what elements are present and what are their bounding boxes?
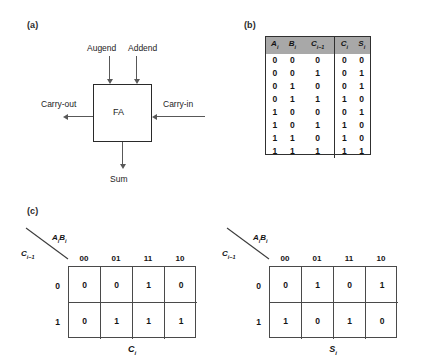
table-row: 0 1 1 1 0: [266, 93, 370, 106]
kmap-sum-cell-r0c2: 0: [334, 267, 366, 303]
cell-b: 0: [284, 54, 302, 67]
carry-in-arrow-head-icon: [152, 114, 157, 120]
cell-s: 0: [353, 54, 370, 67]
cell-s: 0: [353, 93, 370, 106]
cell-cprev: 1: [301, 93, 335, 106]
header-a: Ai: [266, 37, 284, 54]
sum-arrow-line: [122, 142, 123, 165]
kmap-sum-cell-r1c2: 1: [334, 303, 366, 339]
cell-cout: 1: [335, 119, 354, 132]
truth-table-body: 0 0 0 0 0 0 0 1 0 1 0 1 0 0: [266, 54, 370, 158]
cell-cprev: 0: [301, 80, 335, 93]
truth-table-header-row: Ai Bi Ci−1 Ci Si: [266, 37, 370, 54]
cell-cout: 0: [335, 80, 354, 93]
kmap-sum-row-label-1: 1: [245, 317, 261, 327]
kmap-carry-cell-r0c1: 0: [101, 267, 133, 303]
addend-arrow-line: [136, 56, 137, 80]
kmap-sum-cell-r1c1: 0: [302, 303, 334, 339]
cell-s: 1: [353, 80, 370, 93]
kmap-sum-cell-r0c0: 0: [270, 267, 302, 303]
cell-a: 1: [266, 106, 284, 119]
kmap-carry-col-label-2: 11: [132, 254, 164, 263]
header-s: Si: [353, 37, 370, 54]
kmap-sum-caption: Si: [269, 344, 397, 356]
panel-label-c: (c): [27, 206, 38, 216]
kmap-sum-grid: 0 1 0 1 1 0 1 0: [269, 266, 397, 338]
truth-table-container: Ai Bi Ci−1 Ci Si 0 0 0 0 0 0 0: [265, 36, 371, 155]
cell-cprev: 1: [301, 119, 335, 132]
cell-s: 1: [353, 106, 370, 119]
label-addend: Addend: [128, 43, 157, 53]
augend-arrow-line: [109, 56, 110, 80]
cell-b: 1: [284, 132, 302, 145]
cell-b: 0: [284, 106, 302, 119]
carry-out-arrow-head-icon: [63, 114, 68, 120]
cell-cprev: 1: [301, 67, 335, 80]
kmap-carry-row-label-0: 0: [44, 281, 60, 291]
kmap-sum-col-label-1: 01: [301, 254, 333, 263]
cell-b: 1: [284, 145, 302, 158]
table-row: 1 1 0 1 0: [266, 132, 370, 145]
cell-cprev: 1: [301, 145, 335, 158]
kmap-carry-cell-r1c3: 1: [165, 303, 197, 339]
label-augend: Augend: [87, 43, 116, 53]
panel-label-b: (b): [244, 20, 256, 30]
table-row: 0 0 0 0 0: [266, 54, 370, 67]
cell-b: 1: [284, 80, 302, 93]
cell-s: 0: [353, 119, 370, 132]
cell-cout: 0: [335, 54, 354, 67]
header-c-out: Ci: [335, 37, 354, 54]
cell-b: 0: [284, 119, 302, 132]
table-row: 0 0 1 0 1: [266, 67, 370, 80]
kmap-carry-cell-r0c3: 0: [165, 267, 197, 303]
kmap-sum-cell-r0c3: 1: [366, 267, 398, 303]
cell-a: 0: [266, 67, 284, 80]
cell-s: 0: [353, 132, 370, 145]
kmap-sum-row-label-0: 0: [245, 281, 261, 291]
table-row: 1 1 1 1 1: [266, 145, 370, 158]
carry-out-arrow-line: [68, 116, 93, 117]
kmap-sum-col-label-3: 10: [365, 254, 397, 263]
cell-b: 1: [284, 93, 302, 106]
truth-table: Ai Bi Ci−1 Ci Si 0 0 0 0 0 0 0: [266, 37, 370, 158]
cell-s: 1: [353, 145, 370, 158]
kmap-carry-row-var: Ci−1: [21, 249, 35, 260]
kmap-sum-cell-r1c3: 0: [366, 303, 398, 339]
label-carry-in: Carry-in: [163, 99, 193, 109]
cell-cout: 0: [335, 106, 354, 119]
cell-cprev: 0: [301, 132, 335, 145]
kmap-sum-col-label-0: 00: [269, 254, 301, 263]
kmap-carry-cell-r1c1: 1: [101, 303, 133, 339]
cell-b: 0: [284, 67, 302, 80]
kmap-carry-grid: 0 0 1 0 0 1 1 1: [68, 266, 196, 338]
sum-arrow-head-icon: [120, 164, 126, 169]
kmap-sum-col-var: AiBi: [253, 233, 268, 244]
kmap-carry-cell-r1c0: 0: [69, 303, 101, 339]
kmap-sum-row-var: Ci−1: [222, 249, 236, 260]
kmap-carry-col-label-3: 10: [164, 254, 196, 263]
kmap-carry-cell-r1c2: 1: [133, 303, 165, 339]
cell-s: 1: [353, 67, 370, 80]
cell-cout: 1: [335, 145, 354, 158]
kmap-carry-col-label-1: 01: [100, 254, 132, 263]
kmap-carry-cell-r0c2: 1: [133, 267, 165, 303]
label-sum: Sum: [110, 174, 127, 184]
kmap-carry-caption: Ci: [68, 344, 196, 356]
table-row: 1 0 1 1 0: [266, 119, 370, 132]
cell-a: 1: [266, 145, 284, 158]
kmap-carry-col-var: AiBi: [52, 233, 67, 244]
cell-cout: 1: [335, 93, 354, 106]
cell-a: 0: [266, 93, 284, 106]
kmap-carry-col-label-0: 00: [68, 254, 100, 263]
kmap-sum-cell-r0c1: 1: [302, 267, 334, 303]
header-b: Bi: [284, 37, 302, 54]
cell-cout: 0: [335, 67, 354, 80]
header-c-prev: Ci−1: [301, 37, 335, 54]
table-row: 1 0 0 0 1: [266, 106, 370, 119]
cell-cprev: 0: [301, 106, 335, 119]
kmap-carry-row-label-1: 1: [44, 317, 60, 327]
cell-cprev: 0: [301, 54, 335, 67]
full-adder-box-label: FA: [113, 107, 124, 117]
table-row: 0 1 0 0 1: [266, 80, 370, 93]
panel-label-a: (a): [27, 20, 38, 30]
